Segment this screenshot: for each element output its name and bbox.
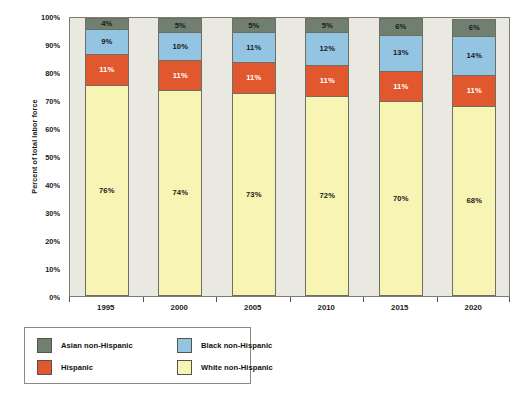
x-tick-mark (69, 297, 70, 302)
y-tick-label: 10% (45, 265, 60, 274)
bar-segment: 72% (305, 96, 349, 296)
x-tick-label: 2010 (296, 303, 356, 312)
legend-label: Asian non-Hispanic (61, 341, 133, 350)
legend: Asian non-HispanicBlack non-HispanicHisp… (24, 327, 251, 384)
bar-segment: 10% (158, 32, 202, 60)
y-tick-label: 40% (45, 181, 60, 190)
x-tick-label: 2000 (149, 303, 209, 312)
y-tick-label: 30% (45, 209, 60, 218)
bar-column: 68%11%14%6% (452, 18, 496, 296)
x-tick-label: 2020 (443, 303, 503, 312)
legend-swatch (37, 360, 52, 375)
y-tick-label: 20% (45, 237, 60, 246)
bar-value-label: 72% (320, 192, 336, 200)
bar-value-label: 11% (99, 66, 114, 74)
bar-segment: 12% (305, 32, 349, 65)
bar-stack: 68%11%14%6% (452, 18, 496, 296)
bar-segment: 73% (232, 93, 276, 296)
bar-segment: 68% (452, 106, 496, 296)
x-tick-mark (216, 297, 217, 302)
bar-value-label: 13% (393, 49, 409, 57)
bar-segment: 11% (452, 75, 496, 106)
legend-swatch (177, 338, 192, 353)
bar-segment: 74% (158, 90, 202, 296)
bar-value-label: 12% (320, 45, 336, 53)
bar-segment: 13% (379, 35, 423, 71)
bar-value-label: 76% (99, 187, 115, 195)
legend-swatch (177, 360, 192, 375)
legend-item: Black non-Hispanic (177, 337, 272, 353)
bar-value-label: 11% (246, 74, 261, 82)
bar-stack: 73%11%11%5% (232, 18, 276, 296)
bar-segment: 11% (305, 65, 349, 96)
x-tick-mark (363, 297, 364, 302)
bar-column: 73%11%11%5% (232, 18, 276, 296)
bar-value-label: 9% (101, 38, 112, 46)
bar-segment: 11% (232, 62, 276, 93)
y-tick-label: 50% (45, 153, 60, 162)
bar-column: 74%11%10%5% (158, 18, 202, 296)
legend-swatch (37, 338, 52, 353)
plot-area: 76%11%9%4%74%11%10%5%73%11%11%5%72%11%12… (69, 17, 510, 297)
bar-stack: 74%11%10%5% (158, 18, 202, 296)
bar-segment: 5% (232, 18, 276, 32)
x-tick-mark (509, 297, 510, 302)
bar-value-label: 74% (173, 189, 189, 197)
bar-segment: 76% (85, 85, 129, 296)
bar-stack: 76%11%9%4% (85, 18, 129, 296)
bar-value-label: 11% (467, 87, 482, 95)
y-axis-tick-labels: 0%10%20%30%40%50%60%70%80%90%100% (22, 17, 64, 297)
bar-stack: 72%11%12%5% (305, 18, 349, 296)
bar-value-label: 11% (320, 77, 335, 85)
bar-segment: 6% (452, 19, 496, 36)
x-tick-label: 1995 (76, 303, 136, 312)
bar-stack: 70%11%13%6% (379, 18, 423, 296)
bar-value-label: 10% (173, 43, 189, 51)
bar-segment: 5% (305, 18, 349, 32)
x-tick-mark (437, 297, 438, 302)
bar-segment: 11% (158, 60, 202, 91)
bar-value-label: 4% (101, 20, 112, 28)
bar-segment: 11% (232, 32, 276, 63)
x-tick-mark (143, 297, 144, 302)
bar-value-label: 70% (393, 195, 409, 203)
legend-label: Hispanic (61, 363, 93, 372)
y-tick-label: 80% (45, 69, 60, 78)
bar-value-label: 11% (393, 83, 408, 91)
bar-segment: 5% (158, 18, 202, 32)
bar-segment: 6% (379, 18, 423, 35)
y-tick-label: 100% (41, 13, 60, 22)
legend-label: White non-Hispanic (201, 363, 273, 372)
bar-value-label: 6% (395, 23, 406, 31)
y-tick-label: 90% (45, 41, 60, 50)
bar-value-label: 14% (467, 52, 483, 60)
bar-value-label: 6% (469, 24, 480, 32)
x-tick-mark (290, 297, 291, 302)
bar-segment: 11% (85, 54, 129, 85)
bar-column: 76%11%9%4% (85, 18, 129, 296)
legend-label: Black non-Hispanic (201, 341, 272, 350)
y-tick-label: 0% (49, 293, 60, 302)
bar-value-label: 11% (246, 44, 261, 52)
x-tick-label: 2015 (370, 303, 430, 312)
bar-segment: 4% (85, 18, 129, 29)
bar-value-label: 5% (248, 22, 259, 30)
bar-segment: 11% (379, 71, 423, 102)
bar-value-label: 5% (322, 22, 333, 30)
bar-value-label: 11% (173, 72, 188, 80)
bar-segment: 9% (85, 29, 129, 54)
y-tick-label: 60% (45, 125, 60, 134)
y-tick-label: 70% (45, 97, 60, 106)
bar-value-label: 73% (246, 191, 262, 199)
bar-segment: 14% (452, 36, 496, 75)
legend-item: Asian non-Hispanic (37, 337, 133, 353)
stacked-bar-chart: Percent of total labor force 0%10%20%30%… (0, 0, 526, 320)
bar-column: 72%11%12%5% (305, 18, 349, 296)
x-tick-label: 2005 (223, 303, 283, 312)
legend-item: Hispanic (37, 359, 93, 375)
bar-column: 70%11%13%6% (379, 18, 423, 296)
x-axis-tick-labels: 199520002005201020152020 (69, 303, 510, 319)
bar-value-label: 5% (175, 22, 186, 30)
bar-value-label: 68% (467, 197, 483, 205)
bar-segment: 70% (379, 101, 423, 296)
